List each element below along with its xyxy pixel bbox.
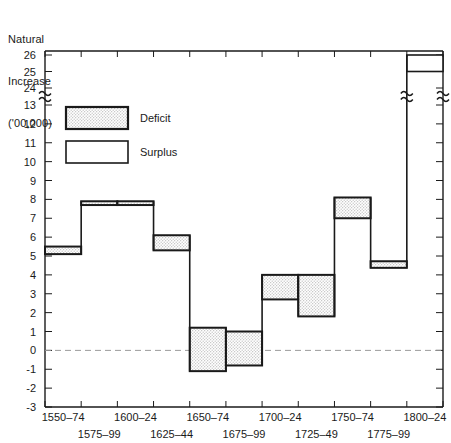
data-bands: [45, 55, 443, 371]
x-tick-label-1550-74: 1550–74: [42, 411, 85, 423]
band-1750-74: [334, 197, 370, 218]
x-axis-tick-labels-lower: 1575–991625–441675–991725–491775–99: [78, 428, 410, 440]
y-tick-label-6: 6: [30, 231, 36, 243]
band-1725-49: [298, 275, 334, 317]
y-tick-label-5: 5: [30, 250, 36, 262]
y-tick-label-neg2: -2: [26, 382, 36, 394]
band-1575-99: [81, 201, 117, 205]
x-tick-label-1600-24: 1600–24: [114, 411, 157, 423]
band-1800-24: [407, 55, 443, 72]
y-axis-title-line-3: ('00,000): [8, 116, 52, 130]
chart-legend: Deficit Surplus: [66, 107, 178, 163]
y-tick-label-4: 4: [30, 269, 36, 281]
band-1625-44: [154, 235, 190, 250]
y-tick-label-neg3: -3: [26, 401, 36, 413]
x-tick-label-1800-24: 1800–24: [403, 411, 446, 423]
y-axis-title: Natural Increase ('00,000): [8, 4, 52, 158]
band-1775-99: [371, 261, 407, 268]
x-tick-label-1650-74: 1650–74: [186, 411, 229, 423]
band-1600-24: [117, 201, 153, 205]
y-tick-label-7: 7: [30, 212, 36, 224]
x-axis-tick-labels-upper: 1550–741600–241650–741700–241750–741800–…: [42, 411, 447, 423]
axis-break-marks: [39, 92, 449, 102]
y-tick-label-neg1: -1: [26, 363, 36, 375]
chart-container: Natural Increase ('00,000) -3-2-10123456…: [0, 0, 451, 443]
y-tick-label-8: 8: [30, 193, 36, 205]
x-tick-label-1625-44: 1625–44: [150, 428, 193, 440]
y-tick-label-1: 1: [30, 326, 36, 338]
y-axis-title-line-1: Natural: [8, 32, 52, 46]
band-1675-99: [226, 332, 262, 366]
x-tick-label-1750-74: 1750–74: [331, 411, 374, 423]
x-tick-label-1700-24: 1700–24: [259, 411, 302, 423]
legend-label-surplus: Surplus: [140, 146, 178, 158]
legend-swatch-surplus: [66, 141, 128, 163]
band-1550-74: [45, 247, 81, 255]
legend-swatch-deficit: [66, 107, 128, 129]
y-axis-title-line-2: Increase: [8, 74, 52, 88]
y-tick-label-0: 0: [30, 344, 36, 356]
chart-plot-svg: -3-2-1012345678910111213242526 1550–7416…: [0, 0, 451, 443]
legend-label-deficit: Deficit: [140, 112, 171, 124]
y-tick-label-3: 3: [30, 288, 36, 300]
x-tick-label-1775-99: 1775–99: [367, 428, 410, 440]
x-tick-label-1675-99: 1675–99: [223, 428, 266, 440]
x-tick-label-1575-99: 1575–99: [78, 428, 121, 440]
band-1700-24: [262, 275, 298, 300]
y-tick-label-9: 9: [30, 175, 36, 187]
y-tick-label-2: 2: [30, 307, 36, 319]
band-1650-74: [190, 328, 226, 371]
x-tick-label-1725-49: 1725–49: [295, 428, 338, 440]
